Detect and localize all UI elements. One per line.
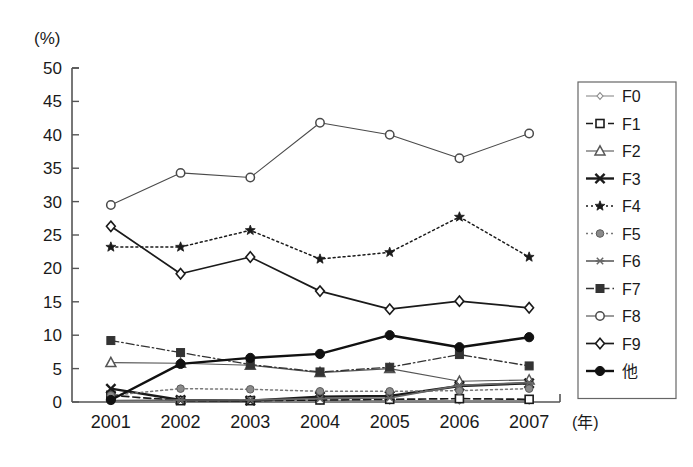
y-tick-label: 35 [43, 159, 62, 178]
data-point-F7-2002 [177, 349, 185, 357]
legend-label-F4: F4 [622, 198, 641, 215]
y-tick-label: 50 [43, 59, 62, 78]
x-axis-unit-label: (年) [572, 414, 599, 431]
data-point-F2-2001 [106, 357, 116, 366]
data-point-F7-2007 [525, 362, 533, 370]
data-point-F5-2005 [386, 388, 394, 396]
y-tick-label: 15 [43, 293, 62, 312]
y-tick-label: 40 [43, 126, 62, 145]
data-point-F8-2002 [176, 169, 184, 177]
data-point-F4-2004 [315, 254, 325, 263]
data-point-legend-F7 [596, 285, 604, 293]
data-point-F8-2003 [246, 173, 254, 181]
data-point-F8-2007 [525, 129, 533, 137]
data-point-他-2003 [246, 353, 255, 362]
data-point-legend-F5 [596, 230, 604, 238]
line-chart: (%)0510152025303540455020012002200320042… [0, 0, 693, 467]
legend-label-F9: F9 [622, 336, 641, 353]
legend-label-F8: F8 [622, 308, 641, 325]
x-tick-label: 2005 [370, 412, 410, 432]
legend-label-他: 他 [622, 363, 638, 380]
y-tick-label: 45 [43, 92, 62, 111]
data-point-他-2001 [106, 395, 115, 404]
y-tick-label: 20 [43, 259, 62, 278]
data-point-F5-2002 [177, 385, 185, 393]
x-tick-label: 2006 [439, 412, 479, 432]
series-F9 [106, 221, 533, 314]
series-F4 [106, 212, 534, 263]
data-point-F8-2006 [455, 154, 463, 162]
y-axis-unit-label: (%) [34, 29, 60, 48]
chart-screenshot: (%)0510152025303540455020012002200320042… [0, 0, 693, 467]
data-point-F9-2001 [106, 221, 115, 231]
data-point-F9-2003 [246, 252, 255, 262]
data-point-F4-2003 [245, 225, 255, 234]
data-point-F4-2005 [385, 247, 395, 256]
y-tick-label: 25 [43, 226, 62, 245]
data-point-他-2002 [176, 359, 185, 368]
data-point-他-2006 [455, 343, 464, 352]
data-point-他-2007 [525, 333, 534, 342]
data-point-F1-2006 [455, 395, 463, 403]
data-point-F1-2007 [525, 395, 533, 403]
x-tick-label: 2003 [230, 412, 270, 432]
data-point-legend-他 [595, 366, 604, 375]
data-point-F9-2002 [176, 269, 185, 279]
legend-label-F3: F3 [622, 171, 641, 188]
data-point-F9-2007 [525, 303, 534, 313]
data-point-F4-2007 [524, 252, 534, 261]
data-point-F4-2001 [106, 242, 116, 251]
data-point-legend-F1 [596, 120, 604, 128]
series-F8 [107, 119, 534, 210]
series-line-F8 [111, 123, 529, 205]
data-point-F5-2003 [246, 386, 254, 394]
legend-label-F1: F1 [622, 116, 641, 133]
x-tick-label: 2007 [509, 412, 549, 432]
data-point-F9-2006 [455, 296, 464, 306]
data-point-F9-2004 [316, 286, 325, 296]
data-point-legend-F8 [596, 312, 604, 320]
data-point-F9-2005 [385, 304, 394, 314]
data-point-F5-2004 [316, 388, 324, 396]
data-point-F8-2005 [386, 131, 394, 139]
data-point-F8-2001 [107, 201, 115, 209]
y-tick-label: 10 [43, 326, 62, 345]
x-tick-label: 2001 [91, 412, 131, 432]
y-tick-label: 30 [43, 193, 62, 212]
data-point-F8-2004 [316, 119, 324, 127]
x-tick-label: 2002 [161, 412, 201, 432]
data-point-他-2005 [385, 331, 394, 340]
legend-label-F2: F2 [622, 143, 641, 160]
data-point-F7-2001 [107, 337, 115, 345]
data-point-F7-2005 [386, 363, 394, 371]
legend-label-F7: F7 [622, 281, 641, 298]
data-point-他-2004 [315, 349, 324, 358]
y-tick-label: 5 [53, 360, 62, 379]
data-point-F4-2006 [454, 212, 464, 221]
legend-label-F0: F0 [622, 88, 641, 105]
legend-label-F5: F5 [622, 226, 641, 243]
data-point-F7-2004 [316, 368, 324, 376]
y-tick-label: 0 [53, 393, 62, 412]
data-point-F4-2002 [176, 242, 186, 251]
x-tick-label: 2004 [300, 412, 340, 432]
legend-label-F6: F6 [622, 253, 641, 270]
